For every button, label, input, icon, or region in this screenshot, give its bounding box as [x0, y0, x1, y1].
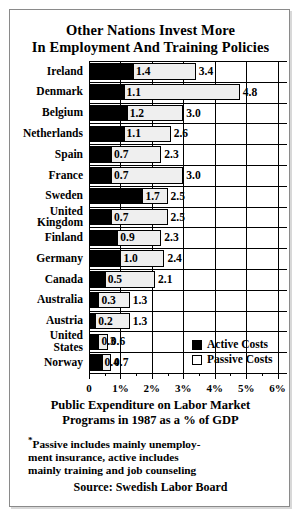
- category-label-line: Sweden: [10, 190, 83, 202]
- axis-tick-major: [152, 373, 153, 379]
- bar-active-denmark[interactable]: [89, 84, 124, 100]
- category-label-austria: Austria: [10, 315, 83, 327]
- axis-caption-line-2: Programs in 1987 as a % of GDP: [10, 413, 291, 428]
- bar-active-finland[interactable]: [89, 230, 117, 246]
- category-label-sweden: Sweden: [10, 190, 83, 202]
- value-label-passive: 2.5: [171, 212, 185, 224]
- bar-active-france[interactable]: [89, 167, 111, 183]
- category-label-line: Australia: [10, 294, 83, 306]
- bar-active-australia[interactable]: [89, 292, 98, 308]
- x-tick-label: 0: [86, 382, 92, 394]
- page-title: Other Nations Invest More In Employment …: [10, 22, 291, 56]
- x-axis: [89, 373, 287, 381]
- title-line-2: In Employment And Training Policies: [10, 39, 291, 56]
- value-label-passive: 4.8: [243, 87, 257, 99]
- category-label-united-kingdom: UnitedKingdom: [10, 206, 83, 229]
- axis-tick-major: [120, 373, 121, 379]
- category-label-australia: Australia: [10, 294, 83, 306]
- category-label-line: France: [10, 170, 83, 182]
- value-label-active: 0.5: [108, 274, 122, 286]
- category-label-belgium: Belgium: [10, 107, 83, 119]
- bar-active-norway[interactable]: [89, 354, 102, 370]
- value-label-passive: 2.6: [174, 128, 188, 140]
- footnote-line-2: ment insurance, active includes: [28, 451, 278, 464]
- value-label-passive: 3.0: [186, 170, 200, 182]
- category-label-line: Canada: [10, 274, 83, 286]
- gridline-horizontal: [89, 165, 287, 166]
- bar-active-united-states[interactable]: [89, 334, 98, 350]
- value-label-active: 0.7: [114, 212, 128, 224]
- axis-tick-minor: [199, 373, 200, 376]
- bar-active-united-kingdom[interactable]: [89, 209, 111, 225]
- category-label-norway: Norway: [10, 357, 83, 369]
- value-label-passive: 0.7: [114, 357, 128, 369]
- plot-area: 1.43.41.14.81.23.01.12.60.72.30.73.01.72…: [89, 61, 287, 373]
- category-label-line: Netherlands: [10, 128, 83, 140]
- footnote-line-1: *Passive includes mainly unemploy-: [28, 434, 278, 451]
- source-note: Source: Swedish Labor Board: [10, 480, 291, 495]
- gridline-horizontal: [89, 123, 287, 124]
- axis-tick-minor: [168, 373, 169, 376]
- axis-caption-line-1: Public Expenditure on Labor Market: [10, 398, 291, 413]
- value-label-active: 0.3: [101, 295, 115, 307]
- axis-tick-major: [246, 373, 247, 379]
- category-label-line: States: [10, 342, 83, 354]
- value-label-active: 0.9: [120, 232, 134, 244]
- chart-row: [89, 63, 287, 79]
- x-tick-label: 1%: [112, 382, 129, 394]
- value-label-passive: 1.3: [133, 316, 147, 328]
- category-label-line: Norway: [10, 357, 83, 369]
- value-label-active: 1.1: [127, 128, 141, 140]
- category-label-line: Belgium: [10, 107, 83, 119]
- legend-swatch-passive-icon: [192, 355, 202, 365]
- value-label-active: 1.0: [123, 253, 137, 265]
- legend: Active Costs Passive Costs: [192, 337, 287, 367]
- legend-label-active: Active Costs: [207, 337, 268, 352]
- chart-row: [89, 292, 287, 308]
- bar-active-belgium[interactable]: [89, 105, 127, 121]
- chart-row: [89, 250, 287, 266]
- legend-swatch-active-icon: [192, 340, 202, 350]
- category-label-line: Denmark: [10, 86, 83, 98]
- gridline-horizontal: [89, 331, 287, 332]
- bar-active-netherlands[interactable]: [89, 126, 124, 142]
- value-label-active: 1.1: [127, 87, 141, 99]
- bar-active-canada[interactable]: [89, 271, 105, 287]
- chart-row: [89, 84, 287, 100]
- value-label-passive: 2.5: [171, 191, 185, 203]
- value-label-active: 1.2: [130, 108, 144, 120]
- category-label-france: France: [10, 170, 83, 182]
- gridline-horizontal: [89, 269, 287, 270]
- legend-item-passive: Passive Costs: [192, 352, 287, 367]
- bar-active-ireland[interactable]: [89, 63, 133, 79]
- title-line-1: Other Nations Invest More: [10, 22, 291, 39]
- chart-row: [89, 313, 287, 329]
- axis-tick-minor: [262, 373, 263, 376]
- value-label-active: 0.7: [114, 170, 128, 182]
- axis-tick-major: [278, 373, 279, 379]
- value-label-active: 1.4: [136, 66, 150, 78]
- gridline-horizontal: [89, 290, 287, 291]
- axis-line: [89, 373, 287, 374]
- bar-active-spain[interactable]: [89, 146, 111, 162]
- bar-active-sweden[interactable]: [89, 188, 142, 204]
- footnote-line-3: mainly training and job counseling: [28, 464, 278, 477]
- gridline-horizontal: [89, 227, 287, 228]
- value-label-passive: 1.3: [133, 295, 147, 307]
- category-label-ireland: Ireland: [10, 66, 83, 78]
- chart-row: [89, 188, 287, 204]
- category-label-germany: Germany: [10, 253, 83, 265]
- category-label-united-states: UnitedStates: [10, 330, 83, 353]
- category-label-line: Germany: [10, 253, 83, 265]
- bar-passive-denmark[interactable]: [124, 84, 240, 100]
- bar-active-germany[interactable]: [89, 250, 120, 266]
- x-tick-label: 2%: [144, 382, 161, 394]
- axis-tick-minor: [136, 373, 137, 376]
- gridline-horizontal: [89, 61, 287, 62]
- value-label-passive: 2.1: [158, 274, 172, 286]
- value-label-passive: 2.3: [164, 149, 178, 161]
- axis-tick-minor: [105, 373, 106, 376]
- gridline-horizontal: [89, 144, 287, 145]
- gridline-horizontal: [89, 248, 287, 249]
- category-label-netherlands: Netherlands: [10, 128, 83, 140]
